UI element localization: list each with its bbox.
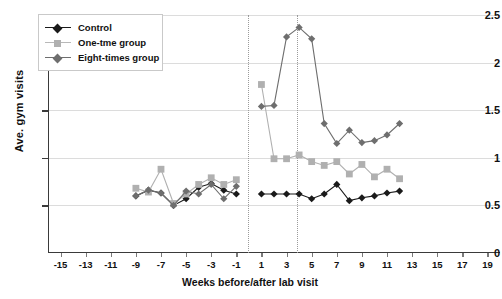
legend-item-one-time-group[interactable]: One-tme group [45,35,156,50]
legend: Control One-tme group Eight-times group [38,14,163,71]
xtick-mark-17 [462,253,463,257]
xtick-mark-3 [287,253,288,257]
intervention-end-line [297,15,298,253]
lab-visit-start-line [248,15,249,253]
xtick-mark--13 [86,253,87,257]
legend-label-control: Control [78,22,112,33]
xtick-label-19: 19 [472,259,502,270]
ytick-label-1-0: 1 [460,153,500,164]
x-axis-title: Weeks before/after lab visit [0,276,500,288]
legend-item-control[interactable]: Control [45,20,156,35]
xtick-mark--15 [61,253,62,257]
ytick-mark-1-0 [42,158,48,159]
legend-label-one-time-group: One-tme group [78,37,146,48]
ytick-label-0: 0 [460,248,500,259]
ytick-label-2-0: 2 [460,58,500,69]
xtick-mark-5 [312,253,313,257]
xtick-mark-15 [437,253,438,257]
ytick-mark-0-5 [42,205,48,206]
xtick-mark-1 [261,253,262,257]
ytick-label-1-5: 1.5 [460,105,500,116]
legend-swatch-one-time-group [45,37,71,48]
legend-swatch-eight-times-group [45,52,71,63]
ytick-mark-1-5 [42,110,48,111]
xtick-mark-7 [337,253,338,257]
legend-swatch-control [45,22,71,33]
ytick-label-2-5: 2.5 [460,10,500,21]
xtick-mark--7 [161,253,162,257]
y-axis-title: Ave. gym visits [13,51,25,171]
legend-label-eight-times-group: Eight-times group [78,52,159,63]
xtick-mark-19 [487,253,488,257]
xtick-mark--3 [211,253,212,257]
legend-item-eight-times-group[interactable]: Eight-times group [45,50,156,65]
xtick-mark--1 [236,253,237,257]
ytick-label-0-5: 0.5 [460,200,500,211]
xtick-mark--9 [136,253,137,257]
xtick-mark-11 [387,253,388,257]
xtick-mark--5 [186,253,187,257]
xtick-mark--11 [111,253,112,257]
xtick-mark-13 [412,253,413,257]
xtick-mark-9 [362,253,363,257]
